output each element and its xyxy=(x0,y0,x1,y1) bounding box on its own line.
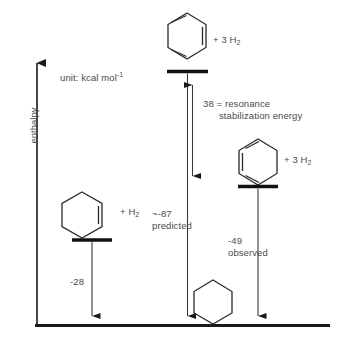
cyclohexene-reagent-sub: 2 xyxy=(135,211,139,218)
cyclohexatriene-structure xyxy=(168,13,206,59)
benzene-reagent-sub: 2 xyxy=(307,159,311,166)
resonance-annotation-line1: 38 = resonance xyxy=(203,98,302,110)
cyclohexatriene-reagent-label: + 3 H2 xyxy=(213,34,240,49)
unit-note-exponent: -1 xyxy=(117,71,123,78)
benzene-enthalpy-note: observed xyxy=(228,247,268,259)
y-axis-label: enthalpy xyxy=(28,91,39,161)
cyclohexene-reagent-label: + H2 xyxy=(120,206,139,221)
cyclohexatriene-reagent-text: + 3 H xyxy=(213,34,236,45)
cyclohexene-enthalpy-value: -28 xyxy=(70,276,84,288)
triene-enthalpy-note: predicted xyxy=(152,220,192,232)
resonance-annotation: 38 = resonance stabilization energy xyxy=(203,98,302,122)
unit-note: unit: kcal mol-1 xyxy=(60,69,123,84)
unit-note-text: unit: kcal mol xyxy=(60,72,117,83)
benzene-enthalpy-value: -49 xyxy=(228,235,268,247)
cyclohexene-enthalpy-annotation: -28 xyxy=(70,276,84,288)
triene-enthalpy-value: ~-87 xyxy=(152,208,192,220)
cyclohexene-structure xyxy=(62,192,102,238)
cyclohexatriene-reagent-sub: 2 xyxy=(236,39,240,46)
resonance-annotation-line2: stabilization energy xyxy=(203,110,302,122)
triene-enthalpy-annotation: ~-87 predicted xyxy=(152,208,192,232)
cyclohexene-reagent-text: + H xyxy=(120,206,135,217)
benzene-enthalpy-annotation: -49 observed xyxy=(228,235,268,259)
benzene-reagent-label: + 3 H2 xyxy=(284,154,311,169)
diagram-canvas xyxy=(0,0,347,348)
enthalpy-diagram: enthalpy unit: kcal mol-1 + 3 H2 38 = re… xyxy=(0,0,347,348)
benzene-reagent-text: + 3 H xyxy=(284,154,307,165)
benzene-structure xyxy=(239,139,277,185)
cyclohexane-structure xyxy=(194,280,232,324)
